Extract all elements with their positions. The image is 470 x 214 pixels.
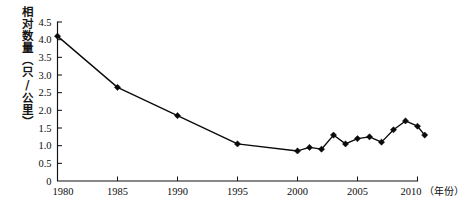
y-tick-label: 0.5 bbox=[38, 158, 51, 169]
x-tick-label: 2000 bbox=[287, 186, 308, 197]
x-tick-label: 2005 bbox=[347, 186, 368, 197]
x-tick-label: 1995 bbox=[227, 186, 248, 197]
data-point-marker bbox=[306, 144, 312, 150]
x-axis-unit-label: （年份） bbox=[424, 185, 464, 197]
y-tick-label: 2.5 bbox=[38, 87, 51, 98]
x-tick-label: 1990 bbox=[167, 186, 188, 197]
axis-lines bbox=[58, 22, 418, 181]
y-tick-label-group: 00.51.01.52.02.53.03.54.04.5 bbox=[38, 17, 51, 187]
x-tick-label: 1980 bbox=[53, 186, 74, 197]
y-tick-label: 4.0 bbox=[38, 34, 51, 45]
line-chart-plot: 00.51.01.52.02.53.03.54.04.5 19801985199… bbox=[0, 0, 470, 214]
data-point-marker bbox=[294, 148, 300, 154]
data-point-marker bbox=[234, 141, 240, 147]
data-point-marker bbox=[366, 134, 372, 140]
data-point-marker-group bbox=[54, 33, 427, 154]
y-tick-label: 1.5 bbox=[38, 123, 51, 134]
chart-container: 相对数量（只/公里） 00.51.01.52.02.53.03.54.04.5 … bbox=[0, 0, 470, 214]
y-tick-label: 2.0 bbox=[38, 105, 51, 116]
y-tick-label: 1.0 bbox=[38, 140, 51, 151]
x-tick-label: 1985 bbox=[107, 186, 128, 197]
y-tick-label: 0 bbox=[46, 176, 51, 187]
x-tick-mark-group bbox=[118, 177, 418, 182]
data-point-marker bbox=[354, 136, 360, 142]
y-tick-label: 4.5 bbox=[38, 17, 51, 28]
data-point-marker bbox=[174, 113, 180, 119]
x-tick-label: 2010 bbox=[401, 186, 422, 197]
y-tick-label: 3.5 bbox=[38, 52, 51, 63]
y-tick-label: 3.0 bbox=[38, 70, 51, 81]
x-tick-label-group: 1980198519901995200020052010 bbox=[53, 186, 422, 197]
y-tick-mark-group bbox=[58, 22, 63, 163]
